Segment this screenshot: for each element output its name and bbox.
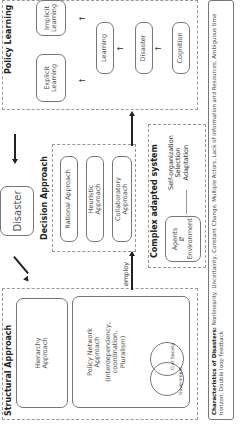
arrowhead-icon (12, 159, 18, 164)
arrowhead-icon (129, 111, 135, 116)
government-label: Government (178, 367, 183, 395)
disaster-box: Disaster (0, 186, 34, 236)
civil-society-label: Civil Society (170, 342, 175, 370)
rational-approach-box: Rational Approach (60, 156, 78, 242)
disaster-chain-box: Disaster (135, 22, 153, 74)
decision-approach-title: Decision Approach (40, 156, 49, 240)
collaboratory-approach-label: Collaboratory Approach (115, 169, 129, 229)
diagram-canvas: Structural Approach Hierarchy Approach P… (0, 0, 242, 426)
implicit-learning-box: Implicit Learning (36, 0, 66, 36)
structural-approach-title: Structural Approach (4, 325, 13, 416)
learning-label: Learning (101, 34, 108, 62)
heuristic-approach-label: Heuristic Approach (88, 174, 102, 224)
complex-adapted-system-title: Complex adapted system (150, 144, 159, 258)
agents-environment-box: Agents ⇵ Environment (165, 216, 201, 262)
implicit-learning-label: Implicit Learning (44, 3, 58, 33)
arrow-up-icon: ↑ (78, 77, 87, 84)
hierarchy-approach-box: Hierarchy Approach (16, 298, 68, 408)
characteristics-label: Characteristics of Disasters: (211, 327, 217, 415)
employ-arrow (131, 254, 133, 290)
cognition-label: Cognition (177, 32, 184, 63)
learning-box: Learning (96, 22, 114, 74)
connector-line (186, 190, 187, 214)
policy-network-detail: (interdependency, coordination, Pluralis… (105, 317, 126, 387)
rational-approach-label: Rational Approach (65, 169, 72, 229)
cognition-box: Cognition (172, 22, 190, 74)
disaster-label: Disaster (12, 190, 23, 231)
collaboratory-approach-box: Collaboratory Approach (112, 156, 132, 242)
cas-outcomes: Self-organization Selection Adaptation (168, 135, 190, 190)
heuristic-approach-box: Heuristic Approach (86, 156, 104, 242)
adaptation-label: Adaptation (183, 135, 190, 190)
policy-network-label: Policy Network Approach (87, 317, 101, 387)
explicit-learning-box: Explicit Learning (36, 54, 66, 102)
employ-label: employ (122, 262, 130, 286)
environment-label: Environment (187, 218, 194, 260)
arrow-up-icon: ↑ (154, 45, 163, 52)
arrow-to-disaster (14, 134, 16, 160)
arrow-to-policy-learning (131, 114, 133, 146)
hierarchy-approach-label: Hierarchy Approach (35, 328, 49, 378)
arrow-to-structural (13, 256, 29, 274)
arrow-up-icon: ↑ (78, 15, 87, 22)
characteristics-box: Characteristics of Disasters: Nonlineari… (208, 0, 234, 420)
explicit-learning-label: Explicit Learning (44, 60, 58, 96)
arrowhead-icon (23, 276, 31, 284)
policy-learning-title: Policy Learning (4, 5, 13, 74)
disaster-chain-label: Disaster (140, 35, 147, 62)
arrow-up-icon: ↑ (116, 45, 125, 52)
